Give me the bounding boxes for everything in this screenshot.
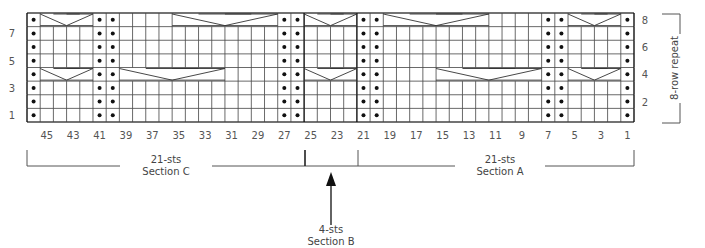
column-label: 13 <box>463 130 476 141</box>
purl-dot <box>296 59 300 63</box>
purl-dot <box>282 100 286 104</box>
purl-dot <box>375 31 379 35</box>
purl-dot <box>625 59 629 63</box>
purl-dot <box>375 59 379 63</box>
purl-dot <box>98 31 102 35</box>
purl-dot <box>98 18 102 22</box>
purl-dot <box>559 18 563 22</box>
column-label: 1 <box>624 130 630 141</box>
column-label: 17 <box>410 130 423 141</box>
purl-dot <box>375 100 379 104</box>
purl-dot <box>98 100 102 104</box>
purl-dot <box>32 100 36 104</box>
purl-dot <box>559 31 563 35</box>
section-b-count: 4-sts <box>319 224 343 235</box>
column-label: 37 <box>146 130 159 141</box>
purl-dot <box>361 31 365 35</box>
column-label: 19 <box>384 130 397 141</box>
purl-dot <box>361 18 365 22</box>
row-label-right: 2 <box>642 97 648 108</box>
section-c-bracket: 21-sts Section C <box>27 150 305 177</box>
purl-dot <box>559 113 563 117</box>
section-a-count: 21-sts <box>485 154 516 165</box>
column-labels: 4543413937353331292725232119171513119753… <box>40 130 630 141</box>
purl-dot <box>625 31 629 35</box>
purl-dot <box>625 86 629 90</box>
purl-dot <box>296 100 300 104</box>
section-b-name: Section B <box>307 236 354 247</box>
purl-dot <box>296 18 300 22</box>
purl-dot <box>375 18 379 22</box>
purl-dot <box>296 72 300 76</box>
purl-dot <box>282 59 286 63</box>
column-label: 23 <box>331 130 344 141</box>
purl-dot <box>559 45 563 49</box>
column-label: 35 <box>172 130 185 141</box>
purl-dot <box>546 59 550 63</box>
column-label: 43 <box>67 130 80 141</box>
purl-dot <box>98 59 102 63</box>
purl-dot <box>625 100 629 104</box>
purl-dot <box>111 59 115 63</box>
purl-dot <box>361 72 365 76</box>
purl-dot <box>361 45 365 49</box>
section-a-name: Section A <box>476 166 523 177</box>
column-label: 15 <box>436 130 449 141</box>
purl-dot <box>98 113 102 117</box>
column-label: 41 <box>93 130 106 141</box>
purl-dot <box>282 113 286 117</box>
purl-dot <box>375 113 379 117</box>
purl-dot <box>375 45 379 49</box>
purl-dot <box>625 18 629 22</box>
purl-dot <box>282 86 286 90</box>
purl-dot <box>32 86 36 90</box>
row-repeat-bracket: 8-row repeat <box>662 14 680 123</box>
column-label: 31 <box>225 130 238 141</box>
purl-dot <box>111 45 115 49</box>
row-label-left: 3 <box>9 83 15 94</box>
purl-dot <box>32 31 36 35</box>
purl-dot <box>32 59 36 63</box>
purl-dot <box>546 100 550 104</box>
arrow-head-icon <box>326 172 336 186</box>
purl-dot <box>111 18 115 22</box>
section-c-name: Section C <box>142 166 189 177</box>
purl-dot <box>625 72 629 76</box>
column-label: 29 <box>252 130 265 141</box>
column-label: 3 <box>598 130 604 141</box>
purl-dot <box>32 113 36 117</box>
knitting-chart: 4543413937353331292725232119171513119753… <box>0 0 705 248</box>
column-label: 11 <box>489 130 502 141</box>
purl-dot <box>98 86 102 90</box>
column-label: 33 <box>199 130 212 141</box>
purl-dot <box>546 31 550 35</box>
purl-dot <box>32 45 36 49</box>
purl-dot <box>559 100 563 104</box>
purl-dot <box>361 59 365 63</box>
column-label: 25 <box>304 130 317 141</box>
purl-dot <box>296 31 300 35</box>
purl-dot <box>111 72 115 76</box>
purl-dot <box>32 18 36 22</box>
purl-dot <box>361 86 365 90</box>
purl-dot <box>111 31 115 35</box>
purl-dot <box>111 100 115 104</box>
column-label: 5 <box>571 130 577 141</box>
purl-dot <box>32 72 36 76</box>
purl-dot <box>546 72 550 76</box>
purl-dot <box>559 59 563 63</box>
section-c-count: 21-sts <box>151 154 182 165</box>
purl-dot <box>559 86 563 90</box>
purl-dot <box>282 72 286 76</box>
purl-dot <box>98 45 102 49</box>
row-repeat-label: 8-row repeat <box>669 36 680 100</box>
section-b-bracket: 4-sts Section B <box>305 150 358 247</box>
purl-dot <box>111 113 115 117</box>
column-label: 9 <box>519 130 525 141</box>
purl-dot <box>282 31 286 35</box>
purl-dot <box>296 113 300 117</box>
row-label-left: 1 <box>9 110 15 121</box>
column-label: 21 <box>357 130 370 141</box>
row-label-right: 6 <box>642 42 648 53</box>
purl-dot <box>625 113 629 117</box>
